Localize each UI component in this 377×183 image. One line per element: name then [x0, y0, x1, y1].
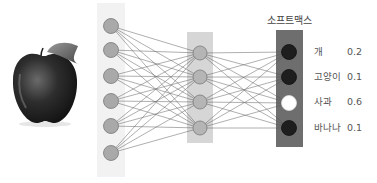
output-node-1: [282, 45, 297, 60]
input-node-1: [104, 19, 119, 34]
output-node-2: [282, 70, 297, 85]
output-value-banana: 0.1: [347, 122, 362, 134]
output-value-apple: 0.6: [347, 96, 362, 108]
input-node-3: [104, 69, 119, 84]
output-label-dog: 개: [314, 46, 323, 58]
hidden-node-1: [193, 46, 207, 60]
hidden-node-2: [193, 70, 207, 84]
input-node-5: [104, 119, 119, 134]
output-value-dog: 0.2: [347, 46, 362, 58]
hidden-node-4: [193, 121, 207, 135]
input-node-2: [104, 43, 119, 58]
output-label-apple: 사과: [314, 96, 332, 108]
hidden-output-connections: [200, 52, 289, 128]
softmax-layer-title: 소프트맥스: [262, 12, 316, 27]
output-node-3: [282, 96, 297, 111]
input-node-4: [104, 94, 119, 109]
input-node-6: [104, 146, 119, 161]
output-label-cat: 고양이: [314, 71, 341, 83]
hidden-node-3: [193, 95, 207, 109]
neural-network-diagram: 소프트맥스 개 0.2 고양이 0.1 사과 0.6 바나나 0.1: [0, 0, 377, 183]
output-label-banana: 바나나: [314, 122, 341, 134]
output-node-4: [282, 121, 297, 136]
output-value-cat: 0.1: [347, 71, 362, 83]
apple-icon: [13, 43, 78, 127]
